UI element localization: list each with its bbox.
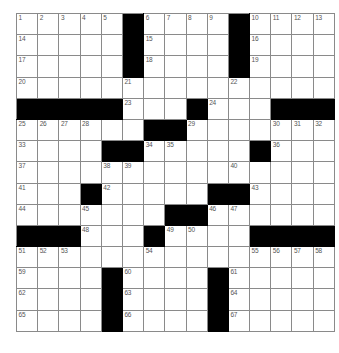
crossword-cell[interactable] — [38, 35, 59, 56]
crossword-cell[interactable]: 15 — [144, 35, 165, 56]
crossword-cell[interactable]: 47 — [228, 204, 249, 225]
crossword-cell[interactable] — [59, 289, 80, 310]
crossword-cell[interactable]: 50 — [186, 225, 207, 246]
crossword-cell[interactable] — [271, 56, 292, 77]
crossword-cell[interactable] — [292, 56, 313, 77]
crossword-cell[interactable] — [122, 119, 143, 140]
crossword-cell[interactable]: 49 — [165, 225, 186, 246]
crossword-cell[interactable]: 26 — [38, 119, 59, 140]
crossword-cell[interactable] — [101, 77, 122, 98]
crossword-cell[interactable] — [186, 183, 207, 204]
crossword-cell[interactable] — [313, 183, 334, 204]
crossword-cell[interactable] — [228, 119, 249, 140]
crossword-cell[interactable]: 51 — [17, 247, 38, 268]
crossword-cell[interactable]: 45 — [80, 204, 101, 225]
crossword-cell[interactable]: 20 — [17, 77, 38, 98]
crossword-cell[interactable] — [207, 141, 228, 162]
crossword-grid[interactable]: 1234567891011121314151617181920212223242… — [16, 13, 335, 332]
crossword-cell[interactable] — [186, 310, 207, 331]
crossword-cell[interactable] — [313, 268, 334, 289]
crossword-cell[interactable] — [292, 310, 313, 331]
crossword-cell[interactable]: 33 — [17, 141, 38, 162]
crossword-cell[interactable]: 63 — [122, 289, 143, 310]
crossword-cell[interactable] — [80, 141, 101, 162]
crossword-cell[interactable]: 64 — [228, 289, 249, 310]
crossword-cell[interactable] — [313, 289, 334, 310]
crossword-cell[interactable]: 8 — [186, 14, 207, 35]
crossword-cell[interactable] — [292, 141, 313, 162]
crossword-cell[interactable] — [38, 310, 59, 331]
crossword-cell[interactable]: 53 — [59, 247, 80, 268]
crossword-cell[interactable] — [122, 225, 143, 246]
crossword-cell[interactable]: 29 — [186, 119, 207, 140]
crossword-cell[interactable]: 35 — [165, 141, 186, 162]
crossword-cell[interactable] — [207, 119, 228, 140]
crossword-cell[interactable]: 11 — [271, 14, 292, 35]
crossword-cell[interactable] — [250, 204, 271, 225]
crossword-cell[interactable] — [80, 162, 101, 183]
crossword-cell[interactable] — [250, 162, 271, 183]
crossword-cell[interactable]: 60 — [122, 268, 143, 289]
crossword-cell[interactable] — [186, 77, 207, 98]
crossword-cell[interactable] — [186, 35, 207, 56]
crossword-cell[interactable] — [292, 77, 313, 98]
crossword-cell[interactable] — [292, 268, 313, 289]
crossword-cell[interactable] — [271, 183, 292, 204]
crossword-cell[interactable] — [80, 77, 101, 98]
crossword-cell[interactable] — [38, 289, 59, 310]
crossword-cell[interactable] — [80, 289, 101, 310]
crossword-cell[interactable]: 34 — [144, 141, 165, 162]
crossword-cell[interactable] — [313, 77, 334, 98]
crossword-cell[interactable] — [228, 98, 249, 119]
crossword-cell[interactable] — [59, 268, 80, 289]
crossword-cell[interactable]: 59 — [17, 268, 38, 289]
crossword-cell[interactable]: 42 — [101, 183, 122, 204]
crossword-cell[interactable]: 41 — [17, 183, 38, 204]
crossword-cell[interactable] — [144, 268, 165, 289]
crossword-cell[interactable] — [271, 35, 292, 56]
crossword-cell[interactable]: 54 — [144, 247, 165, 268]
crossword-cell[interactable] — [292, 289, 313, 310]
crossword-cell[interactable]: 62 — [17, 289, 38, 310]
crossword-cell[interactable] — [165, 183, 186, 204]
crossword-cell[interactable]: 55 — [250, 247, 271, 268]
crossword-cell[interactable] — [271, 162, 292, 183]
crossword-cell[interactable]: 32 — [313, 119, 334, 140]
crossword-cell[interactable]: 6 — [144, 14, 165, 35]
crossword-cell[interactable] — [292, 35, 313, 56]
crossword-cell[interactable] — [101, 225, 122, 246]
crossword-cell[interactable]: 2 — [38, 14, 59, 35]
crossword-cell[interactable] — [207, 247, 228, 268]
crossword-cell[interactable]: 1 — [17, 14, 38, 35]
crossword-cell[interactable] — [250, 310, 271, 331]
crossword-cell[interactable]: 31 — [292, 119, 313, 140]
crossword-cell[interactable] — [186, 289, 207, 310]
crossword-cell[interactable]: 52 — [38, 247, 59, 268]
crossword-cell[interactable]: 46 — [207, 204, 228, 225]
crossword-cell[interactable]: 18 — [144, 56, 165, 77]
crossword-cell[interactable] — [144, 98, 165, 119]
crossword-cell[interactable] — [59, 141, 80, 162]
crossword-cell[interactable] — [165, 56, 186, 77]
crossword-cell[interactable] — [144, 77, 165, 98]
crossword-cell[interactable] — [271, 310, 292, 331]
crossword-cell[interactable] — [271, 77, 292, 98]
crossword-cell[interactable]: 25 — [17, 119, 38, 140]
crossword-cell[interactable] — [313, 56, 334, 77]
crossword-cell[interactable]: 36 — [271, 141, 292, 162]
crossword-cell[interactable] — [271, 268, 292, 289]
crossword-cell[interactable] — [59, 56, 80, 77]
crossword-cell[interactable] — [271, 289, 292, 310]
crossword-cell[interactable] — [144, 310, 165, 331]
crossword-cell[interactable] — [80, 56, 101, 77]
crossword-cell[interactable]: 23 — [122, 98, 143, 119]
crossword-cell[interactable] — [313, 204, 334, 225]
crossword-cell[interactable]: 10 — [250, 14, 271, 35]
crossword-cell[interactable] — [101, 35, 122, 56]
crossword-cell[interactable] — [186, 162, 207, 183]
crossword-cell[interactable] — [165, 268, 186, 289]
crossword-cell[interactable] — [38, 141, 59, 162]
crossword-cell[interactable]: 48 — [80, 225, 101, 246]
crossword-cell[interactable]: 57 — [292, 247, 313, 268]
crossword-cell[interactable]: 56 — [271, 247, 292, 268]
